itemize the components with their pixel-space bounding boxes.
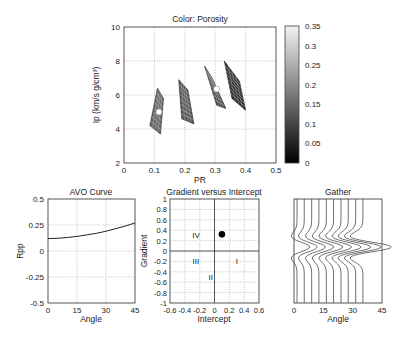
- marker-dot: [156, 109, 162, 115]
- gi-zero-axes: [170, 199, 259, 303]
- y-tick-label: -1: [160, 299, 167, 308]
- x-tick-label: 45: [131, 306, 140, 315]
- gather-trace: [332, 199, 361, 303]
- avo-title: AVO Curve: [70, 187, 113, 197]
- x-tick-label: 30: [102, 306, 111, 315]
- gather-trace: [326, 199, 352, 303]
- figure-canvas: Color: Porosity 00.10.20.30.40.5 246810 …: [0, 0, 403, 339]
- gi-point: [219, 231, 226, 238]
- gather-title: Gather: [325, 187, 351, 197]
- y-tick-label: 0: [40, 247, 45, 256]
- gi-points: [219, 231, 226, 238]
- y-tick-label: 0.4: [157, 226, 167, 235]
- y-tick-label: 0.5: [33, 195, 45, 204]
- colorbar-tick-label: 0: [305, 159, 310, 168]
- porosity-colorbar: 00.050.10.150.20.250.30.35: [285, 22, 321, 168]
- quadrant-label: IV: [192, 231, 200, 240]
- x-tick-label: 0.3: [210, 166, 222, 175]
- y-tick-label: -0.5: [30, 299, 44, 308]
- x-tick-label: 45: [378, 306, 387, 315]
- y-tick-label: -0.25: [26, 273, 45, 282]
- colorbar-ticks: 00.050.10.150.20.250.30.35: [305, 22, 321, 168]
- gi-title: Gradient versus Intercept: [166, 187, 262, 197]
- y-tick-label: 0.6: [157, 216, 167, 225]
- y-tick-label: 0: [163, 247, 167, 256]
- x-tick-label: 0: [46, 306, 51, 315]
- gather-trace: [306, 199, 326, 303]
- x-tick-label: 0: [122, 166, 127, 175]
- y-tick-label: 4: [116, 125, 121, 134]
- quadrant-label: II: [209, 273, 213, 282]
- crossplot-xticks: 00.10.20.30.40.5: [122, 166, 282, 175]
- gather-traces: [291, 199, 391, 303]
- y-tick-label: 6: [116, 91, 121, 100]
- x-tick-label: 0.1: [149, 166, 161, 175]
- colorbar-tick-label: 0.3: [305, 42, 317, 51]
- x-tick-label: 0.4: [239, 306, 249, 315]
- crossplot-ylabel: Ip (km/s g/cm³): [91, 67, 101, 124]
- gather-panel: Gather 0153045 Angle: [291, 187, 391, 324]
- colorbar-tick-label: 0.1: [305, 120, 317, 129]
- y-tick-label: -0.2: [154, 257, 167, 266]
- gather-xlabel: Angle: [327, 314, 349, 324]
- gi-xlabel: Intercept: [197, 314, 231, 324]
- x-tick-label: 30: [348, 306, 357, 315]
- avo-xlabel: Angle: [80, 314, 102, 324]
- y-tick-label: 0.2: [157, 237, 167, 246]
- x-tick-label: 0: [292, 306, 297, 315]
- gather-trace: [299, 199, 318, 303]
- quadrant-label: I: [236, 257, 238, 266]
- colorbar-tick-label: 0.2: [305, 81, 317, 90]
- y-tick-label: 10: [111, 23, 120, 32]
- gradient-intercept-panel: Gradient versus Intercept IVIIIIII -0.6-…: [139, 187, 264, 324]
- y-tick-label: 2: [116, 159, 121, 168]
- y-tick-label: -0.4: [154, 268, 167, 277]
- avo-ylabel: Rpp: [15, 243, 25, 259]
- colorbar-gradient: [285, 26, 299, 163]
- marker-dot: [214, 86, 220, 92]
- gather-trace: [350, 199, 391, 303]
- x-tick-label: -0.4: [178, 306, 191, 315]
- x-tick-label: 0.4: [240, 166, 252, 175]
- gather-trace: [319, 199, 343, 303]
- crossplot-title: Color: Porosity: [172, 14, 228, 24]
- colorbar-tick-label: 0.25: [305, 61, 321, 70]
- colorbar-tick-label: 0.05: [305, 139, 321, 148]
- quadrant-label: III: [193, 257, 200, 266]
- crossplot-grid: [124, 27, 276, 163]
- gather-trace: [312, 199, 333, 303]
- avo-yticks: 0.50.250-0.25-0.5: [26, 195, 45, 308]
- gi-quadrant-labels: IVIIIIII: [192, 231, 238, 282]
- avo-curve-panel: AVO Curve 0153045 0.50.250-0.25-0.5 Angl…: [15, 187, 140, 324]
- avo-grid: [48, 199, 135, 303]
- gi-yticks: 10.80.60.40.20-0.2-0.4-0.6-0.8-1: [154, 195, 167, 308]
- crossplot-xlabel: PR: [194, 175, 206, 185]
- crossplot-regions: [150, 61, 246, 134]
- y-tick-label: 0.8: [157, 205, 167, 214]
- gi-ylabel: Gradient: [139, 234, 149, 267]
- y-tick-label: 0.25: [28, 221, 44, 230]
- crossplot-panel: Color: Porosity 00.10.20.30.40.5 246810 …: [91, 14, 282, 185]
- x-tick-label: 0.6: [254, 306, 264, 315]
- y-tick-label: 1: [163, 195, 167, 204]
- y-tick-label: 8: [116, 57, 121, 66]
- x-tick-label: 0.2: [179, 166, 191, 175]
- colorbar-tick-label: 0.35: [305, 22, 321, 31]
- colorbar-tick-label: 0.15: [305, 100, 321, 109]
- x-tick-label: 0.5: [270, 166, 282, 175]
- crossplot-yticks: 246810: [111, 23, 120, 168]
- y-tick-label: -0.6: [154, 278, 167, 287]
- y-tick-label: -0.8: [154, 289, 167, 298]
